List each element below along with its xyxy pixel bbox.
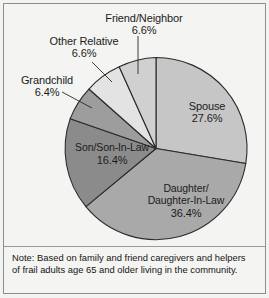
chart-plot-area: Friend/Neighbor 6.6% Other Relative 6.6%…	[0, 0, 269, 298]
slice-label-grandchild-name: Grandchild	[8, 74, 86, 86]
slice-label-daughter-pct: 36.4%	[130, 207, 242, 219]
slice-label-friend-neighbor: Friend/Neighbor 6.6%	[86, 12, 202, 37]
slice-label-son: Son/Son-In-Law 16.4%	[60, 142, 164, 166]
slice-label-grandchild-pct: 6.4%	[8, 86, 86, 98]
slice-label-other-relative: Other Relative 6.6%	[32, 35, 136, 60]
slice-label-spouse-pct: 27.6%	[176, 112, 238, 124]
pie-chart-figure: Friend/Neighbor 6.6% Other Relative 6.6%…	[0, 0, 269, 298]
slice-label-other-relative-pct: 6.6%	[32, 47, 136, 59]
slice-label-son-pct: 16.4%	[60, 154, 164, 166]
slice-label-spouse-name: Spouse	[176, 100, 238, 112]
slice-label-spouse: Spouse 27.6%	[176, 100, 238, 125]
slice-label-grandchild: Grandchild 6.4%	[8, 74, 86, 99]
chart-note: Note: Based on family and friend caregiv…	[12, 252, 250, 277]
note-divider	[4, 246, 265, 247]
slice-label-daughter: Daughter/ Daughter-In-Law 36.4%	[130, 183, 242, 219]
slice-label-daughter-name-line1: Daughter/	[130, 183, 242, 195]
slice-label-friend-neighbor-name: Friend/Neighbor	[86, 12, 202, 24]
slice-label-son-name: Son/Son-In-Law	[60, 142, 164, 154]
slice-label-other-relative-name: Other Relative	[32, 35, 136, 47]
slice-label-daughter-name-line2: Daughter-In-Law	[130, 195, 242, 207]
